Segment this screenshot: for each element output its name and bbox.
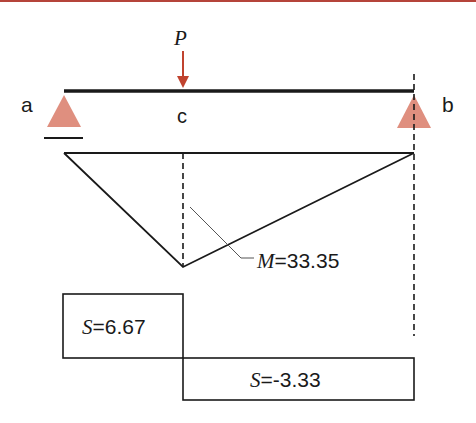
shear-equals: = xyxy=(93,315,105,338)
shear-symbol: S xyxy=(250,368,261,392)
shear-annotation-negative: S=-3.33 xyxy=(250,368,321,392)
shear-symbol: S xyxy=(82,315,93,339)
moment-equals: = xyxy=(275,249,287,272)
moment-symbol: M xyxy=(256,249,276,273)
shear-value: -3.33 xyxy=(273,368,321,391)
moment-value: 33.35 xyxy=(287,249,340,272)
load-label: P xyxy=(173,26,187,50)
support-a-label: a xyxy=(21,93,33,116)
moment-leader xyxy=(190,207,254,258)
moment-annotation: M=33.35 xyxy=(256,249,339,273)
shear-value: 6.67 xyxy=(105,315,146,338)
point-c-label: c xyxy=(177,105,187,127)
shear-equals: = xyxy=(261,368,273,391)
moment-diagram xyxy=(64,153,414,267)
load-arrow-icon xyxy=(177,76,189,88)
support-a-icon xyxy=(47,95,81,127)
shear-annotation-positive: S=6.67 xyxy=(82,315,146,339)
beam-diagram: a b c P M=33.35 S=6.67 S=-3.33 xyxy=(0,0,476,423)
support-b-label: b xyxy=(442,93,454,116)
